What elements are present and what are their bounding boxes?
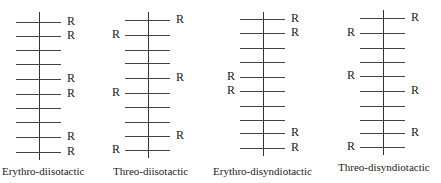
substituent-bond bbox=[240, 62, 285, 63]
r-group-label-right: R bbox=[291, 141, 299, 153]
diagram-caption: Threo-disyndiotactic bbox=[338, 161, 430, 173]
substituent-bond bbox=[240, 106, 285, 107]
substituent-bond bbox=[360, 33, 405, 34]
substituent-bond bbox=[240, 33, 285, 34]
r-group-label-right: R bbox=[176, 129, 184, 141]
r-group-label-right: R bbox=[411, 11, 419, 23]
r-group-label-right: R bbox=[176, 13, 184, 25]
substituent-bond bbox=[16, 64, 61, 65]
r-group-label-right: R bbox=[67, 145, 75, 157]
r-group-label-right: R bbox=[67, 72, 75, 84]
r-group-label-left: R bbox=[347, 26, 355, 38]
r-group-label-left: R bbox=[112, 28, 120, 40]
r-group-label-right: R bbox=[291, 126, 299, 138]
substituent-bond bbox=[240, 77, 285, 78]
substituent-bond bbox=[16, 108, 61, 109]
substituent-bond bbox=[125, 35, 170, 36]
r-group-label-right: R bbox=[291, 26, 299, 38]
r-group-label-right: R bbox=[67, 130, 75, 142]
substituent-bond bbox=[125, 78, 170, 79]
substituent-bond bbox=[360, 48, 405, 49]
r-group-label-right: R bbox=[411, 84, 419, 96]
r-group-label-left: R bbox=[112, 86, 120, 98]
substituent-bond bbox=[125, 93, 170, 94]
r-group-label-left: R bbox=[227, 70, 235, 82]
r-group-label-left: R bbox=[347, 140, 355, 152]
substituent-bond bbox=[360, 91, 405, 92]
r-group-label-left: R bbox=[227, 84, 235, 96]
substituent-bond bbox=[125, 136, 170, 137]
r-group-label-left: R bbox=[112, 143, 120, 155]
substituent-bond bbox=[240, 120, 285, 121]
substituent-bond bbox=[240, 133, 285, 134]
r-group-label-right: R bbox=[67, 15, 75, 27]
substituent-bond bbox=[360, 62, 405, 63]
substituent-bond bbox=[125, 150, 170, 151]
substituent-bond bbox=[16, 122, 61, 123]
diagram-caption: Threo-diisotactic bbox=[113, 165, 188, 177]
substituent-bond bbox=[16, 50, 61, 51]
r-group-label-left: R bbox=[347, 69, 355, 81]
substituent-bond bbox=[360, 120, 405, 121]
substituent-bond bbox=[240, 91, 285, 92]
diagram-caption: Erythro-disyndiotactic bbox=[213, 165, 312, 177]
substituent-bond bbox=[240, 48, 285, 49]
diagram-caption: Erythro-diisotactic bbox=[2, 165, 84, 177]
substituent-bond bbox=[16, 79, 61, 80]
substituent-bond bbox=[16, 152, 61, 153]
substituent-bond bbox=[360, 106, 405, 107]
substituent-bond bbox=[125, 122, 170, 123]
substituent-bond bbox=[16, 94, 61, 95]
r-group-label-right: R bbox=[291, 12, 299, 24]
r-group-label-right: R bbox=[67, 29, 75, 41]
r-group-label-right: R bbox=[411, 126, 419, 138]
substituent-bond bbox=[360, 18, 405, 19]
substituent-bond bbox=[16, 22, 61, 23]
r-group-label-right: R bbox=[176, 71, 184, 83]
substituent-bond bbox=[125, 50, 170, 51]
substituent-bond bbox=[16, 36, 61, 37]
substituent-bond bbox=[240, 19, 285, 20]
r-group-label-right: R bbox=[67, 87, 75, 99]
substituent-bond bbox=[125, 107, 170, 108]
substituent-bond bbox=[125, 20, 170, 21]
substituent-bond bbox=[240, 148, 285, 149]
substituent-bond bbox=[16, 137, 61, 138]
substituent-bond bbox=[360, 147, 405, 148]
substituent-bond bbox=[360, 133, 405, 134]
substituent-bond bbox=[360, 76, 405, 77]
substituent-bond bbox=[125, 63, 170, 64]
